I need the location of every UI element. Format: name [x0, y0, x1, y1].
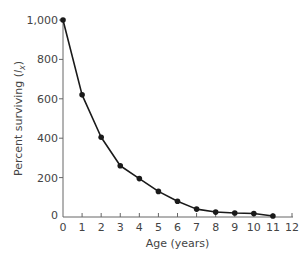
x-axis-title: Age (years): [146, 237, 210, 250]
x-tick-label: 6: [174, 221, 181, 234]
y-tick-label: 600: [37, 93, 58, 106]
x-tick-label: 5: [155, 221, 162, 234]
data-point: [98, 134, 104, 140]
y-axis: 02004006008001,000: [27, 14, 64, 222]
data-point: [137, 176, 143, 182]
data-point: [251, 211, 257, 217]
data-line: [63, 20, 273, 216]
data-point: [156, 189, 162, 195]
x-tick-label: 4: [136, 221, 143, 234]
x-tick-label: 10: [247, 221, 261, 234]
data-point: [194, 206, 200, 212]
data-point: [117, 163, 123, 169]
data-point: [79, 92, 85, 98]
x-tick-label: 0: [60, 221, 67, 234]
x-axis: 0123456789101112: [60, 213, 300, 234]
data-point: [232, 210, 238, 216]
survivorship-chart: 02004006008001,000 0123456789101112 Age …: [0, 0, 308, 269]
y-tick-label: 800: [37, 53, 58, 66]
data-point: [213, 209, 219, 215]
x-tick-label: 8: [212, 221, 219, 234]
x-tick-label: 7: [193, 221, 200, 234]
data-point: [60, 17, 66, 23]
y-axis-title: Percent surviving (lx): [12, 61, 27, 176]
y-tick-label: 200: [37, 172, 58, 185]
x-tick-label: 1: [79, 221, 86, 234]
data-point: [175, 198, 181, 204]
x-tick-label: 11: [266, 221, 280, 234]
x-tick-label: 2: [98, 221, 105, 234]
y-tick-label: 0: [51, 209, 58, 222]
x-tick-label: 9: [231, 221, 238, 234]
y-tick-label: 400: [37, 132, 58, 145]
data-point: [270, 213, 276, 219]
x-tick-label: 12: [285, 221, 299, 234]
x-tick-label: 3: [117, 221, 124, 234]
y-tick-label: 1,000: [27, 14, 59, 27]
